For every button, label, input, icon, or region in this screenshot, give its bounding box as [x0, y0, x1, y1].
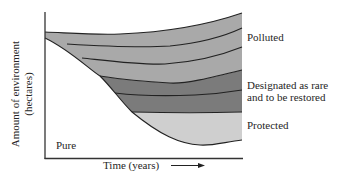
y-axis-label: Amount of environment (hectares) — [2, 30, 42, 158]
y-axis-label-line2: (hectares) — [22, 41, 35, 147]
region-label-designated-line2: and to be restored — [247, 91, 326, 103]
region-label-protected: Protected — [247, 119, 289, 131]
time-arrow-head — [198, 163, 205, 168]
region-label-polluted: Polluted — [247, 31, 284, 43]
x-axis-label: Time (years) — [103, 159, 159, 171]
polluted-region — [45, 13, 242, 83]
region-label-pure: Pure — [56, 139, 76, 151]
y-axis-label-line1: Amount of environment — [9, 41, 22, 147]
region-label-designated-line1: Designated as rare — [247, 79, 328, 91]
protected-region — [132, 112, 242, 145]
